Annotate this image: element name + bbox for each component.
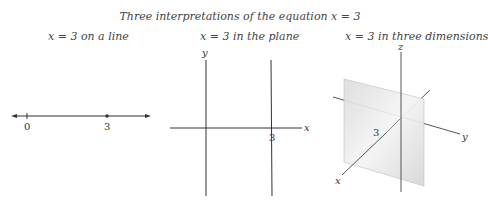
right-arrow-icon: [145, 114, 151, 118]
label-three: 3: [269, 132, 275, 143]
label-zero: 0: [24, 121, 30, 132]
left-arrow-icon: [11, 114, 17, 118]
label-y-axis: y: [461, 131, 468, 142]
label-three: 3: [104, 121, 110, 132]
label-z-axis: z: [397, 41, 404, 52]
label-x-axis: x: [304, 122, 310, 133]
number-line: 0 3: [11, 113, 151, 132]
line-x-equals-3: [271, 60, 272, 196]
label-x-axis: x: [335, 175, 341, 186]
three-d-graph: z y x 3: [333, 41, 468, 192]
point-three: [105, 114, 109, 118]
plane-graph: y x 3: [170, 47, 310, 196]
label-three: 3: [373, 127, 379, 138]
plane-x-equals-3: [344, 79, 424, 186]
label-y-axis: y: [201, 47, 208, 58]
